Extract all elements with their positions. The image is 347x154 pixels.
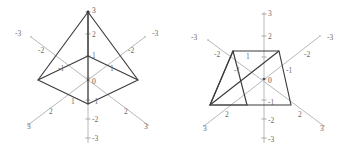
left-label-ll3: 3 (27, 122, 31, 131)
left-label-ll2: 2 (49, 107, 53, 116)
left-label-ur3: -3 (152, 29, 158, 38)
left-apex-point (87, 11, 90, 14)
right-label-zm3: -3 (268, 135, 274, 144)
left-label-z1: 1 (92, 51, 96, 60)
left-label-zm1: -1 (92, 97, 98, 106)
right-label-ll2: 2 (225, 110, 229, 119)
left-label-origin: 0 (92, 77, 96, 86)
right-label-z3: 3 (268, 9, 272, 18)
right-label-z1: 1 (246, 52, 250, 61)
left-label-ul3: -3 (15, 29, 21, 38)
right-label-ur1: -1 (286, 66, 292, 75)
right-plot-svg: 3 2 1 0 -1 -2 -3 -3 -2 -1 -1 -2 -3 2 3 2… (174, 0, 347, 154)
left-label-lr1: 1 (110, 64, 114, 73)
figure-canvas: 3 2 1 0 -1 -2 -3 -3 -2 -1 1 2 3 -3 -2 1 … (0, 0, 347, 154)
left-label-z2: 2 (92, 30, 96, 39)
left-label-ur2: -2 (128, 46, 134, 55)
left-label-lr3: 3 (144, 122, 148, 131)
left-plot: 3 2 1 0 -1 -2 -3 -3 -2 -1 1 2 3 -3 -2 1 … (0, 0, 174, 154)
left-label-ul2: -2 (38, 46, 44, 55)
right-pyramid-outline (210, 51, 291, 105)
right-label-ul2: -2 (214, 50, 220, 59)
left-origin-point (87, 79, 90, 82)
right-label-ur2: -2 (304, 50, 310, 59)
right-origin-point (263, 78, 266, 81)
right-label-origin: 0 (268, 76, 272, 85)
left-label-ll-inner: 1 (71, 97, 75, 106)
right-label-lr3: 3 (320, 124, 324, 133)
right-label-ul3: -3 (191, 33, 197, 42)
left-plot-svg: 3 2 1 0 -1 -2 -3 -3 -2 -1 1 2 3 -3 -2 1 … (0, 0, 174, 154)
left-label-zm3: -3 (92, 134, 98, 143)
left-pyramid-lateral-edges (38, 12, 138, 104)
right-label-z2: 2 (268, 32, 272, 41)
left-label-zm2: -2 (92, 115, 98, 124)
right-label-zm2: -2 (268, 116, 274, 125)
right-label-ul1: -1 (234, 66, 240, 75)
left-label-z3: 3 (92, 6, 96, 15)
left-label-ul1: -1 (58, 64, 64, 73)
right-label-ur3: -3 (327, 33, 333, 42)
right-plot: 3 2 1 0 -1 -2 -3 -3 -2 -1 -1 -2 -3 2 3 2… (174, 0, 347, 154)
right-label-lr2: 2 (298, 110, 302, 119)
left-label-lr2: 2 (124, 107, 128, 116)
right-label-zm1: -1 (268, 98, 274, 107)
right-label-ll3: 3 (203, 124, 207, 133)
